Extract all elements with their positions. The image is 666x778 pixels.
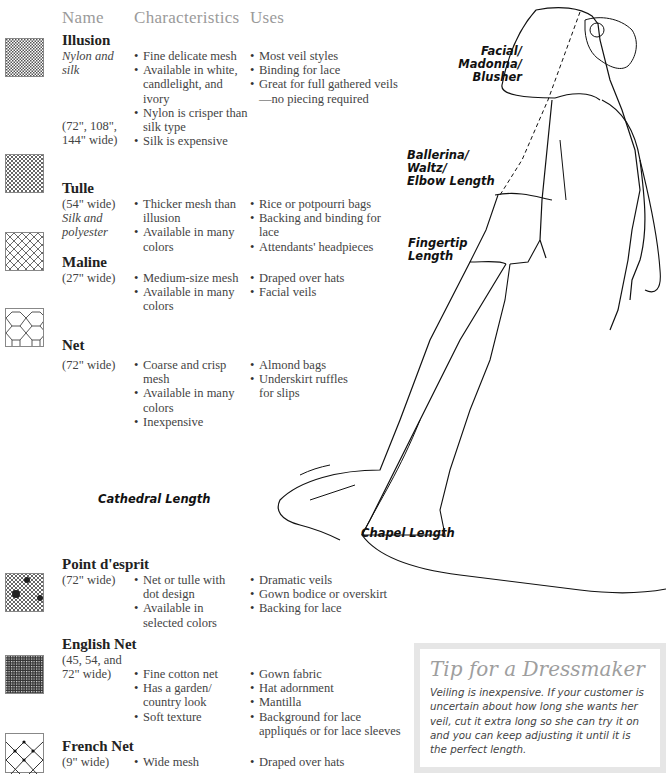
list-item: Great for full gathered veils—no piecing…: [250, 77, 400, 105]
fabric-width-english-net: (45, 54, and 72" wide): [62, 653, 122, 681]
list-item: Mantilla: [250, 695, 410, 709]
hexagon-net-swatch-icon: [5, 308, 44, 347]
list-item: Dramatic veils: [250, 573, 400, 587]
fabric-material-tulle: Silk and polyester: [62, 211, 108, 239]
fabric-width-point-d-esprit: (72" wide): [62, 573, 115, 587]
characteristics-list-tulle: Thicker mesh than illusion Available in …: [134, 197, 254, 254]
list-item: Nylon is crisper than silk type: [134, 106, 252, 134]
fabric-name-net: Net: [62, 337, 85, 354]
veil-label-fingertip: Fingertip Length: [408, 237, 467, 263]
tip-body: Veiling is inexpensive. If your customer…: [430, 685, 650, 756]
veil-label-facial: Facial/ Madonna/ Blusher: [440, 45, 522, 84]
list-item: Available in many colors: [134, 386, 254, 414]
list-item: Almond bags: [250, 358, 360, 372]
list-item: Rice or potpourri bags: [250, 197, 385, 211]
fabric-name-illusion: Illusion: [62, 32, 110, 49]
column-header-name: Name: [62, 8, 104, 28]
english-net-swatch-icon: [5, 655, 44, 694]
list-item: Gown fabric: [250, 667, 410, 681]
uses-list-english-net: Gown fabric Hat adornment Mantilla Backg…: [250, 667, 410, 738]
list-item: Hat adornment: [250, 681, 410, 695]
list-item: Draped over hats: [250, 755, 400, 769]
list-item: Has a garden/ country look: [134, 681, 239, 709]
fabric-material-illusion: Nylon and silk: [62, 49, 114, 77]
list-item: Wide mesh: [134, 755, 254, 769]
list-item: Most veil styles: [250, 49, 400, 63]
uses-list-net: Almond bags Underskirt ruffles for slips: [250, 358, 360, 401]
french-net-swatch-icon: [5, 733, 44, 773]
fabric-name-tulle: Tulle: [62, 180, 94, 197]
fabric-name-french-net: French Net: [62, 738, 134, 755]
fine-mesh-swatch-icon: [5, 38, 44, 77]
characteristics-list-net: Coarse and crisp mesh Available in many …: [134, 358, 254, 429]
list-item: Attendants' headpieces: [250, 240, 385, 254]
list-item: Soft texture: [134, 710, 239, 724]
list-item: Medium-size mesh: [134, 271, 254, 285]
list-item: Net or tulle with dot design: [134, 573, 239, 601]
tulle-mesh-swatch-icon: [5, 154, 44, 193]
fabric-width-maline: (27" wide): [62, 271, 115, 285]
list-item: Draped over hats: [250, 271, 400, 285]
list-item: Gown bodice or overskirt: [250, 587, 400, 601]
veil-label-ballerina: Ballerina/ Waltz/ Elbow Length: [407, 149, 495, 188]
veil-label-chapel: Chapel Length: [361, 527, 455, 540]
fabric-width-illusion: (72", 108", 144" wide): [62, 119, 117, 147]
fabric-name-english-net: English Net: [62, 636, 137, 653]
tip-title: Tip for a Dressmaker: [430, 657, 650, 681]
list-item: Inexpensive: [134, 415, 254, 429]
column-header-uses: Uses: [250, 8, 284, 28]
characteristics-list-french-net: Wide mesh: [134, 755, 254, 769]
list-item: Silk is expensive: [134, 134, 252, 148]
characteristics-list-english-net: Fine cotton net Has a garden/ country lo…: [134, 667, 239, 724]
list-item: Available in selected colors: [134, 601, 239, 629]
veil-label-cathedral: Cathedral Length: [98, 493, 211, 506]
list-item: Fine delicate mesh: [134, 49, 252, 63]
list-item: Binding for lace: [250, 63, 400, 77]
list-item: Backing for lace: [250, 601, 400, 615]
fabric-name-maline: Maline: [62, 254, 107, 271]
uses-list-tulle: Rice or potpourri bags Backing and bindi…: [250, 197, 385, 254]
characteristics-list-illusion: Fine delicate mesh Available in white, c…: [134, 49, 252, 148]
uses-list-maline: Draped over hats Facial veils: [250, 271, 400, 299]
fabric-width-tulle: (54" wide): [62, 197, 115, 211]
list-item: Thicker mesh than illusion: [134, 197, 254, 225]
list-item: Underskirt ruffles for slips: [250, 372, 360, 400]
characteristics-list-maline: Medium-size mesh Available in many color…: [134, 271, 254, 314]
fabric-name-point-d-esprit: Point d'esprit: [62, 556, 149, 573]
fabric-width-french-net: (9" wide): [62, 755, 109, 769]
characteristics-list-point-d-esprit: Net or tulle with dot design Available i…: [134, 573, 239, 630]
list-item: Available in many colors: [134, 225, 254, 253]
list-item: Background for lace appliqués or for lac…: [250, 710, 410, 738]
list-item: Available in white, candlelight, and ivo…: [134, 63, 252, 106]
list-item: Coarse and crisp mesh: [134, 358, 254, 386]
uses-list-point-d-esprit: Dramatic veils Gown bodice or overskirt …: [250, 573, 400, 616]
list-item: Available in many colors: [134, 285, 254, 313]
tip-box: Tip for a Dressmaker Veiling is inexpens…: [414, 643, 666, 773]
maline-mesh-swatch-icon: [5, 232, 44, 271]
uses-list-french-net: Draped over hats: [250, 755, 400, 769]
uses-list-illusion: Most veil styles Binding for lace Great …: [250, 49, 400, 106]
list-item: Fine cotton net: [134, 667, 239, 681]
list-item: Facial veils: [250, 285, 400, 299]
list-item: Backing and binding for lace: [250, 211, 385, 239]
fabric-width-net: (72" wide): [62, 358, 115, 372]
dotted-net-swatch-icon: [5, 573, 44, 612]
column-header-characteristics: Characteristics: [134, 8, 240, 28]
